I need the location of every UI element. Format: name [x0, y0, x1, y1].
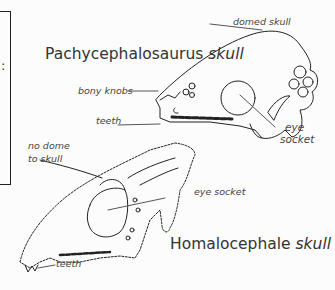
homalocephale-title: Homalocephale skull	[170, 235, 331, 253]
label-no-dome-2: to skull	[28, 153, 62, 164]
label-eye-socket-pachy-2: socket	[280, 133, 314, 145]
label-teeth-homalo: teeth	[56, 258, 81, 269]
pachycephalosaurus-genus: Pachycephalosaurus	[45, 45, 203, 63]
label-no-dome-1: no dome	[28, 140, 70, 151]
label-domed-skull: domed skull	[233, 16, 291, 27]
homalocephale-genus: Homalocephale	[170, 235, 291, 253]
pachycephalosaurus-title: Pachycephalosaurus skull	[45, 45, 244, 63]
label-eye-socket-pachy-1: eye	[285, 121, 304, 133]
label-bony-knobs: bony knobs	[78, 85, 133, 96]
pachycephalosaurus-suffix: skull	[208, 45, 244, 63]
homalocephale-suffix: skull	[296, 235, 332, 253]
label-eye-socket-homalo: eye socket	[194, 186, 245, 197]
label-teeth-pachy: teeth	[96, 115, 121, 126]
